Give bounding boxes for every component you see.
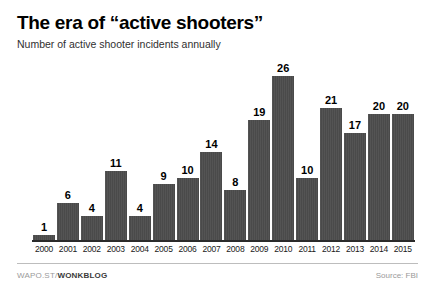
bar-column: 10 [177,62,199,241]
bar [153,184,175,241]
bar-value-label: 26 [277,62,289,74]
x-tick-label: 2004 [129,244,151,255]
x-tick-label: 2010 [272,244,294,255]
bar-value-label: 10 [301,164,313,176]
bar-column: 19 [248,62,270,241]
bar-column: 10 [296,62,318,241]
bar-column: 21 [320,62,342,241]
credit-brand: WONKBLOG [57,271,107,280]
bar [105,171,127,241]
source-note: Source: FBI [376,271,418,280]
bar-value-label: 1 [41,221,47,233]
bar-column: 26 [272,62,294,241]
bar [177,178,199,241]
bar-column: 20 [368,62,390,241]
x-tick-label: 2003 [105,244,127,255]
chart-footer: WAPO.ST/WONKBLOG Source: FBI [17,271,418,280]
bar-value-label: 19 [253,106,265,118]
bar-value-label: 6 [65,189,71,201]
wonkblog-credit: WAPO.ST/WONKBLOG [17,271,107,280]
bar-value-label: 20 [373,100,385,112]
bar [272,76,294,241]
bar [248,120,270,241]
bar-value-label: 9 [161,170,167,182]
bar-value-label: 20 [397,100,409,112]
bar-column: 14 [200,62,222,241]
bar [224,190,246,241]
bar-value-label: 14 [205,138,217,150]
bar [344,133,366,241]
x-tick-label: 2013 [344,244,366,255]
bar-value-label: 4 [137,202,143,214]
bar-series: 16411491014819261021172020 [33,62,414,241]
bar-value-label: 8 [232,176,238,188]
x-tick-label: 2009 [248,244,270,255]
x-tick-label: 2001 [57,244,79,255]
bar [57,203,79,241]
page-title: The era of “active shooters” [17,12,421,34]
chart-figure: The era of “active shooters” Number of a… [0,0,435,296]
bar [81,216,103,241]
bar-value-label: 10 [181,164,193,176]
credit-prefix: WAPO.ST/ [17,271,57,280]
x-tick-label: 2007 [200,244,222,255]
bar-column: 8 [224,62,246,241]
bar-column: 17 [344,62,366,241]
bar-column: 6 [57,62,79,241]
bar [200,152,222,241]
chart-header: The era of “active shooters” Number of a… [17,12,421,51]
x-axis-tick-labels: 2000200120022003200420052006200720082009… [33,244,414,255]
bar [368,114,390,241]
bar-column: 4 [81,62,103,241]
bar [320,108,342,241]
chart-subtitle: Number of active shooter incidents annua… [17,38,421,51]
bar [392,114,414,241]
bar-column: 4 [129,62,151,241]
x-tick-label: 2014 [368,244,390,255]
x-tick-label: 2005 [153,244,175,255]
x-axis-line [32,240,415,242]
x-tick-label: 2000 [33,244,55,255]
bar-column: 20 [392,62,414,241]
plot-area: 16411491014819261021172020 [33,62,414,241]
bar-column: 9 [153,62,175,241]
bar [129,216,151,241]
bar-column: 11 [105,62,127,241]
bar-value-label: 21 [325,94,337,106]
x-tick-label: 2011 [296,244,318,255]
bar-value-label: 4 [89,202,95,214]
bar-value-label: 11 [110,157,122,169]
x-tick-label: 2012 [320,244,342,255]
bar-column: 1 [33,62,55,241]
x-tick-label: 2008 [224,244,246,255]
footer-divider [17,263,418,264]
x-tick-label: 2006 [177,244,199,255]
bar-value-label: 17 [349,119,361,131]
bar [296,178,318,241]
x-tick-label: 2002 [81,244,103,255]
x-tick-label: 2015 [392,244,414,255]
